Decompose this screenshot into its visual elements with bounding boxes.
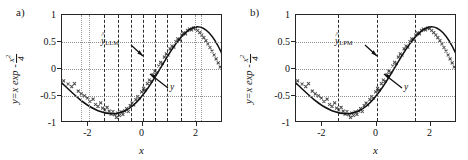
x-tick-label: 2 xyxy=(415,128,445,138)
x-tick-mark xyxy=(321,122,322,126)
x-tick-mark xyxy=(430,122,431,126)
annotation-fitted-a: yLLM xyxy=(101,36,119,46)
x-tick-label: -2 xyxy=(72,128,102,138)
panel-b-x-axis-label: x xyxy=(295,144,456,156)
annotation-true-b: y xyxy=(404,82,408,92)
panel-b-x-ticks: -2 0 2 xyxy=(234,0,468,160)
x-tick-mark xyxy=(196,122,197,126)
x-tick-mark xyxy=(142,122,143,126)
annotation-true-a: y xyxy=(170,82,174,92)
panel-a-x-ticks: -2 0 2 xyxy=(0,0,234,160)
panel-b: b) y=x exp -x24 1 0.5 0 -0.5 -1 xyxy=(234,0,468,160)
panel-a: a) y=x exp -x24 1 0.5 0 -0.5 -1 xyxy=(0,0,234,160)
x-tick-mark xyxy=(87,122,88,126)
x-tick-label: 0 xyxy=(127,128,157,138)
annotation-fitted-b: yLPM xyxy=(335,36,353,46)
x-tick-label: 2 xyxy=(181,128,211,138)
x-tick-label: 0 xyxy=(361,128,391,138)
panel-a-x-axis-label: x xyxy=(61,144,222,156)
figure-two-panel-regression: a) y=x exp -x24 1 0.5 0 -0.5 -1 xyxy=(0,0,468,160)
x-tick-mark xyxy=(376,122,377,126)
x-tick-label: -2 xyxy=(306,128,336,138)
